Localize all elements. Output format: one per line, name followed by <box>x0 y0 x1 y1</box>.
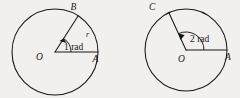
figure-canvas: B A O r 1 rad C A O 2 rad <box>0 0 240 98</box>
point-label-a-left: A <box>92 54 99 64</box>
radius-label-r: r <box>86 30 90 39</box>
point-label-a-right: A <box>224 52 231 62</box>
center-label-o-right: O <box>178 54 185 64</box>
angle-label-right: 2 rad <box>190 34 210 44</box>
center-label-o-left: O <box>36 52 43 62</box>
radius-segment-oc-right <box>169 13 186 50</box>
panel-left-circle: B A O r 1 rad <box>12 2 99 95</box>
point-label-c: C <box>149 2 156 12</box>
radian-figure: B A O r 1 rad C A O 2 rad <box>0 0 240 98</box>
angle-label-left: 1 rad <box>64 42 84 52</box>
point-label-b: B <box>71 2 77 12</box>
panel-right-circle: C A O 2 rad <box>145 2 231 91</box>
